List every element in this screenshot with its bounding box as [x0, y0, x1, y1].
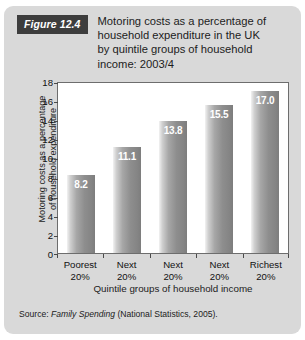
y-axis-tick-mark — [54, 140, 58, 141]
x-axis-tick-label-line: 20% — [196, 271, 242, 283]
y-axis-tick-label: 8 — [48, 172, 53, 183]
x-axis-title: Quintile groups of household income — [57, 283, 289, 294]
bar-slot: 13.8 — [150, 83, 196, 253]
y-axis-tick-mark — [54, 121, 58, 122]
x-axis-tick-label-line: 20% — [150, 271, 196, 283]
x-axis-tick-mark — [103, 254, 104, 258]
x-axis-tick-label: Next20% — [196, 259, 242, 282]
y-axis-tick-mark — [54, 198, 58, 199]
y-axis-tick-mark — [54, 236, 58, 237]
x-axis-tick-label-line: Next — [150, 259, 196, 271]
y-axis-tick-mark — [54, 159, 58, 160]
y-axis-tick-label: 10 — [42, 153, 53, 164]
x-axis-tick-label-line: 20% — [57, 271, 103, 283]
y-axis-tick-mark — [54, 217, 58, 218]
y-axis-tick-label: 18 — [42, 77, 53, 88]
bar-value-label: 17.0 — [251, 95, 280, 106]
x-axis-tick-label-line: Richest — [243, 259, 289, 271]
bar[interactable]: 13.8 — [159, 121, 188, 253]
bar[interactable]: 11.1 — [113, 147, 142, 253]
source-note: Source: Family Spending (National Statis… — [19, 309, 218, 319]
y-axis-tick-labels: 024681012141618 — [36, 82, 53, 254]
x-axis-tick-label-line: 20% — [103, 271, 149, 283]
y-axis-tick-mark — [54, 102, 58, 103]
y-axis-tick-mark — [54, 83, 58, 84]
bar-slot: 11.1 — [104, 83, 150, 253]
bar-value-label: 8.2 — [67, 179, 96, 190]
bar[interactable]: 8.2 — [67, 175, 96, 253]
x-axis-tick-label: Richest20% — [243, 259, 289, 282]
y-axis-tick-label: 0 — [48, 249, 53, 260]
x-axis-tick-mark — [243, 254, 244, 258]
x-axis-tick-label-line: Next — [196, 259, 242, 271]
x-axis-tick-mark — [196, 254, 197, 258]
figure-title-line-3: by quintile groups of household — [98, 42, 289, 56]
y-axis-tick-label: 12 — [42, 134, 53, 145]
x-axis-tick-mark — [150, 254, 151, 258]
source-publication: Family Spending — [51, 309, 115, 319]
figure-card: Figure 12.4 Motoring costs as a percenta… — [4, 6, 301, 334]
x-axis-tick-label: Poorest20% — [57, 259, 103, 282]
bar-chart: Motoring costs as a percentage of househ… — [17, 82, 289, 294]
x-axis-tick-mark — [57, 254, 58, 258]
bars-layer: 8.211.113.815.517.0 — [58, 83, 288, 253]
figure-title-line-4: income: 2003/4 — [98, 57, 289, 71]
y-axis-tick-label: 2 — [48, 229, 53, 240]
bar[interactable]: 17.0 — [251, 91, 280, 253]
figure-title-line-2: household expenditure in the UK — [98, 28, 289, 42]
y-axis-tick-label: 6 — [48, 191, 53, 202]
x-axis-tick-label-line: Next — [103, 259, 149, 271]
bar-slot: 17.0 — [242, 83, 288, 253]
x-axis-tick-label-line: Poorest — [57, 259, 103, 271]
y-axis-tick-label: 16 — [42, 96, 53, 107]
x-axis-tick-mark — [288, 254, 289, 258]
bar-value-label: 11.1 — [113, 151, 142, 162]
bar-value-label: 13.8 — [159, 125, 188, 136]
y-axis-tick-label: 14 — [42, 115, 53, 126]
bar-slot: 8.2 — [58, 83, 104, 253]
figure-title: Motoring costs as a percentage of househ… — [98, 14, 289, 71]
x-axis-tick-label: Next20% — [103, 259, 149, 282]
x-axis-tick-label: Next20% — [150, 259, 196, 282]
plot-area: 8.211.113.815.517.0 — [57, 82, 289, 254]
figure-number-badge: Figure 12.4 — [17, 15, 88, 34]
source-suffix: (National Statistics, 2005). — [115, 309, 218, 319]
bar-value-label: 15.5 — [205, 109, 234, 120]
x-axis-tick-labels: Poorest20%Next20%Next20%Next20%Richest20… — [57, 259, 289, 282]
x-axis-tick-label-line: 20% — [243, 271, 289, 283]
x-axis-tick-marks — [57, 254, 289, 258]
figure-header: Figure 12.4 Motoring costs as a percenta… — [17, 15, 289, 71]
y-axis-tick-label: 4 — [48, 210, 53, 221]
source-prefix: Source: — [19, 309, 51, 319]
bar[interactable]: 15.5 — [205, 105, 234, 253]
bar-slot: 15.5 — [196, 83, 242, 253]
figure-title-line-1: Motoring costs as a percentage of — [98, 14, 289, 28]
y-axis-tick-mark — [54, 179, 58, 180]
